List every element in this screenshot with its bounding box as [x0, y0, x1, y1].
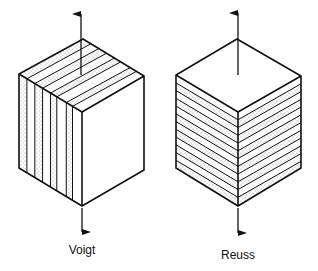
- voigt-label: Voigt: [69, 243, 96, 257]
- voigt-cube: [19, 14, 144, 232]
- reuss-cube: [176, 13, 301, 233]
- diagram-canvas: [0, 0, 318, 271]
- reuss-label: Reuss: [221, 248, 255, 262]
